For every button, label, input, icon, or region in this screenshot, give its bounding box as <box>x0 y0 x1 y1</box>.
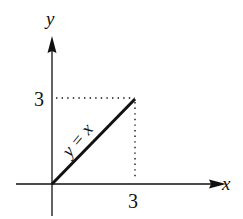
y-axis-arrow-icon <box>48 36 57 53</box>
x-tick-label: 3 <box>128 190 138 212</box>
line-label: y = x <box>56 119 96 162</box>
y-tick-label: 3 <box>34 88 44 110</box>
x-axis-label: x <box>221 173 231 194</box>
chart: y x 3 3 y = x <box>0 0 243 219</box>
y-axis-label: y <box>44 8 55 29</box>
